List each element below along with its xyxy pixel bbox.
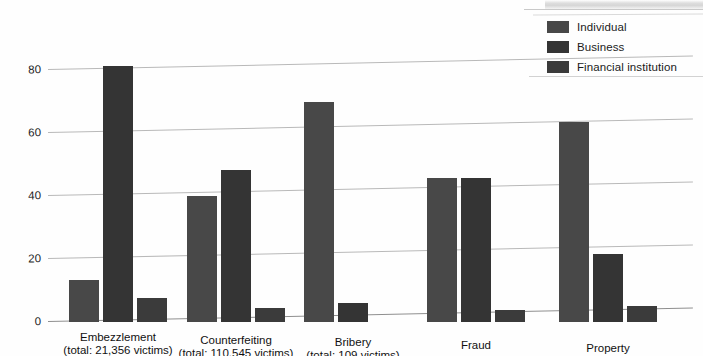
bar xyxy=(559,122,589,322)
legend-item-label: Individual xyxy=(577,21,627,33)
x-axis-group-label: Property xyxy=(586,342,629,355)
x-axis-group-label: Embezzlement(total: 21,356 victims) xyxy=(63,331,172,356)
plot-area: 020406080 xyxy=(48,45,693,322)
x-axis-category-name: Bribery xyxy=(306,336,399,349)
bar xyxy=(627,306,657,322)
bar xyxy=(69,280,99,322)
x-axis-category-total: (total: 110,545 victims) xyxy=(179,347,294,356)
legend-swatch-icon xyxy=(547,21,569,33)
x-axis-group-label: Fraud xyxy=(461,339,491,352)
bar xyxy=(187,196,217,322)
bar xyxy=(461,178,491,322)
scan-artifact-band xyxy=(545,0,703,9)
bar xyxy=(103,66,133,322)
y-axis-tick-label: 0 xyxy=(34,315,41,327)
x-axis-category-total: (total: 109 victims) xyxy=(306,349,399,356)
scan-artifact-line-bottom xyxy=(533,13,703,15)
x-axis-category-name: Counterfeiting xyxy=(179,334,294,347)
bar xyxy=(495,310,525,322)
x-axis-category-name: Embezzlement xyxy=(63,331,172,344)
y-axis-tick-label: 80 xyxy=(28,63,41,75)
x-axis-category-total: (total: 21,356 victims) xyxy=(63,344,172,356)
scan-artifact-line-top xyxy=(524,9,703,10)
x-axis-labels: Embezzlement(total: 21,356 victims)Count… xyxy=(0,330,703,356)
bar xyxy=(221,170,251,322)
bar xyxy=(304,102,334,322)
y-axis-tick-label: 20 xyxy=(28,252,41,264)
bar xyxy=(338,303,368,322)
chart-page: IndividualBusinessFinancial institution … xyxy=(0,0,703,356)
y-axis-tick-label: 40 xyxy=(28,189,41,201)
bar xyxy=(137,298,167,322)
y-axis-tick-label: 60 xyxy=(28,126,41,138)
x-axis-group-label: Counterfeiting(total: 110,545 victims) xyxy=(179,334,294,356)
bar xyxy=(427,178,457,322)
bar xyxy=(593,254,623,322)
x-axis-group-label: Bribery(total: 109 victims) xyxy=(306,336,399,356)
x-axis-category-name: Property xyxy=(586,342,629,355)
bar-series-container xyxy=(48,45,693,322)
bar xyxy=(255,308,285,322)
legend-item[interactable]: Individual xyxy=(547,18,699,36)
x-axis-category-name: Fraud xyxy=(461,339,491,352)
